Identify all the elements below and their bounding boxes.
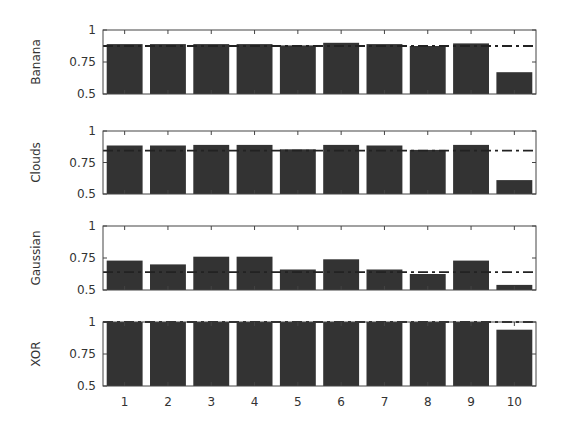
bar xyxy=(150,146,186,195)
y-tick-label: 0.75 xyxy=(69,55,96,69)
x-tick-label: 5 xyxy=(294,395,302,409)
bar xyxy=(323,145,359,194)
y-tick-label: 0.5 xyxy=(77,87,96,101)
bar xyxy=(237,257,273,290)
y-axis-label: Clouds xyxy=(29,142,43,183)
x-tick-label: 8 xyxy=(424,395,432,409)
bar-chart: 0.50.751Banana0.50.751Clouds0.50.751Gaus… xyxy=(0,0,565,435)
bar xyxy=(453,145,489,194)
y-tick-label: 0.5 xyxy=(77,187,96,201)
subplot-xor: 0.50.751XOR12345678910 xyxy=(29,315,536,409)
bar xyxy=(107,146,143,195)
bar xyxy=(453,322,489,386)
bar xyxy=(150,322,186,386)
y-tick-label: 0.5 xyxy=(77,379,96,393)
bar xyxy=(107,322,143,386)
bar xyxy=(280,45,316,94)
y-axis-label: Gaussian xyxy=(29,230,43,285)
y-tick-label: 0.5 xyxy=(77,283,96,297)
bar xyxy=(237,322,273,386)
bar xyxy=(323,322,359,386)
y-tick-label: 0.75 xyxy=(69,347,96,361)
subplot-clouds: 0.50.751Clouds xyxy=(29,124,536,201)
bar xyxy=(323,259,359,290)
bar xyxy=(107,261,143,290)
bar xyxy=(496,330,532,386)
y-axis-label: Banana xyxy=(29,39,43,85)
bar xyxy=(193,322,229,386)
bar xyxy=(107,44,143,94)
x-tick-label: 3 xyxy=(207,395,215,409)
y-tick-label: 1 xyxy=(88,124,96,138)
bar xyxy=(193,145,229,194)
x-tick-label: 2 xyxy=(164,395,172,409)
x-tick-label: 9 xyxy=(467,395,475,409)
y-tick-label: 1 xyxy=(88,219,96,233)
y-tick-label: 1 xyxy=(88,23,96,37)
y-tick-label: 0.75 xyxy=(69,156,96,170)
bar xyxy=(323,43,359,94)
bar xyxy=(410,322,446,386)
bar xyxy=(237,145,273,194)
x-tick-label: 4 xyxy=(251,395,259,409)
y-tick-label: 0.75 xyxy=(69,251,96,265)
bar xyxy=(280,149,316,194)
bar xyxy=(193,257,229,290)
bar xyxy=(410,46,446,94)
y-tick-label: 1 xyxy=(88,315,96,329)
bar xyxy=(453,261,489,290)
x-tick-label: 6 xyxy=(337,395,345,409)
bar xyxy=(453,43,489,94)
y-axis-label: XOR xyxy=(29,341,43,366)
x-tick-label: 10 xyxy=(507,395,522,409)
x-tick-label: 1 xyxy=(121,395,129,409)
bar xyxy=(410,150,446,194)
subplot-gaussian: 0.50.751Gaussian xyxy=(29,219,536,297)
subplot-banana: 0.50.751Banana xyxy=(29,23,536,101)
bar xyxy=(280,322,316,386)
x-tick-label: 7 xyxy=(381,395,389,409)
bar xyxy=(237,44,273,94)
bar xyxy=(367,322,403,386)
bar xyxy=(150,44,186,94)
bar xyxy=(193,44,229,94)
bar xyxy=(367,44,403,94)
bar xyxy=(367,146,403,195)
